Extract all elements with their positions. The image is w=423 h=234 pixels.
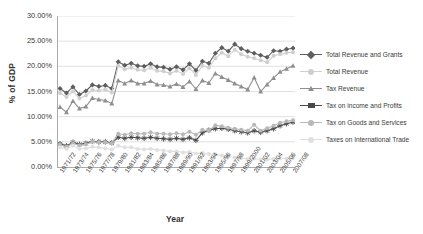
legend-item[interactable]: Taxes on International Trade <box>300 131 423 148</box>
y-axis-tick-label: 5.00% <box>8 137 52 146</box>
legend-label: Total Revenue and Grants <box>326 51 403 58</box>
legend-label: Tax on Goods and Services <box>326 119 407 126</box>
legend-item[interactable]: Tax on Goods and Services <box>300 114 423 131</box>
legend-label: Tax Revenue <box>326 85 365 92</box>
legend-swatch-triangle-icon <box>300 84 322 93</box>
legend-item[interactable]: Tax Revenue <box>300 80 423 97</box>
y-axis-tick-label: 25.00% <box>8 36 52 45</box>
legend-label: Taxes on International Trade <box>326 136 409 143</box>
y-axis-tick-label: 20.00% <box>8 61 52 70</box>
y-axis-tick-label: 0.00% <box>8 162 52 171</box>
legend-swatch-diamond-icon <box>300 50 322 59</box>
legend-swatch-circle-icon <box>300 135 322 144</box>
legend-swatch-circle-icon <box>300 118 322 127</box>
legend-swatch-star-icon <box>300 101 322 110</box>
x-axis-tick-labels: 1971/721973/741975/761977/781979/801981/… <box>57 170 295 216</box>
legend-item[interactable]: Total Revenue and Grants <box>300 46 423 63</box>
legend-label: Tax on income and Profits <box>326 102 402 109</box>
legend-swatch-circle-icon <box>300 67 322 76</box>
plot-area <box>57 16 295 168</box>
chart-container: % of GDP Year 0.00%5.00%10.00%15.00%20.0… <box>0 0 423 234</box>
legend-item[interactable]: Total Revenue <box>300 63 423 80</box>
plot-svg <box>58 16 295 167</box>
y-axis-tick-label: 30.00% <box>8 11 52 20</box>
y-axis-tick-label: 10.00% <box>8 112 52 121</box>
legend-label: Total Revenue <box>326 68 368 75</box>
chart-legend: Total Revenue and GrantsTotal RevenueTax… <box>300 46 423 148</box>
legend-item[interactable]: Tax on income and Profits <box>300 97 423 114</box>
y-axis-tick-label: 15.00% <box>8 87 52 96</box>
